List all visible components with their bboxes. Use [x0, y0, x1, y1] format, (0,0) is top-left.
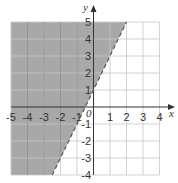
y-axis-label: y — [82, 1, 88, 13]
svg-text:-5: -5 — [6, 111, 16, 123]
svg-text:3: 3 — [140, 111, 146, 123]
svg-text:-3: -3 — [81, 152, 91, 164]
svg-text:-4: -4 — [81, 169, 91, 181]
svg-text:1: 1 — [85, 84, 91, 96]
svg-text:4: 4 — [156, 111, 162, 123]
y-axis-arrow-icon — [91, 5, 97, 12]
svg-text:2: 2 — [123, 111, 129, 123]
shaded-region — [11, 22, 127, 175]
svg-text:5: 5 — [85, 16, 91, 28]
svg-text:-2: -2 — [81, 135, 91, 147]
svg-text:2: 2 — [85, 67, 91, 79]
inequality-graph: x y 0 -5 -4 -3 -2 -1 1 2 3 4 5 4 3 2 1 -… — [0, 0, 178, 183]
svg-text:-1: -1 — [81, 118, 91, 130]
x-axis-label: x — [168, 107, 174, 119]
svg-text:1: 1 — [107, 111, 113, 123]
svg-text:4: 4 — [85, 33, 91, 45]
svg-text:3: 3 — [85, 50, 91, 62]
svg-text:-2: -2 — [56, 111, 66, 123]
svg-text:-3: -3 — [39, 111, 49, 123]
svg-text:-4: -4 — [23, 111, 33, 123]
